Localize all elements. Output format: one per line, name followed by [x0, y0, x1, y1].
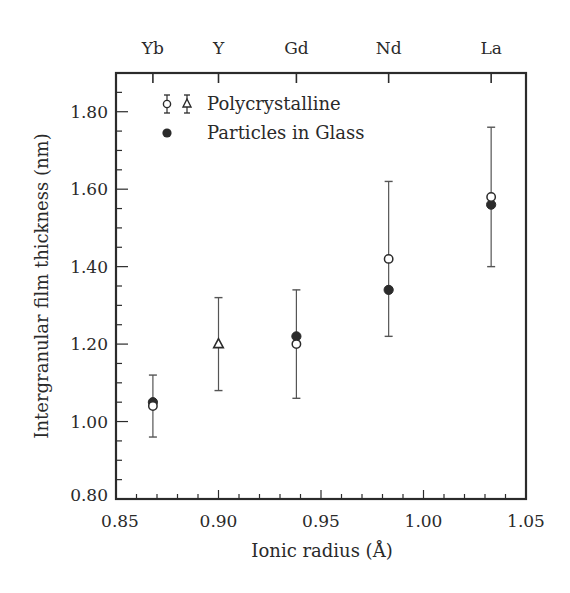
legend-markers [162, 95, 191, 138]
legend-label-particles-in-glass: Particles in Glass [207, 122, 365, 143]
y-axis-ticks: 0.801.001.201.401.601.80 [70, 92, 128, 505]
top-axis-element-labels: YbYGdNdLa [141, 38, 502, 83]
y-tick-label: 1.80 [70, 102, 108, 122]
x-tick-label: 0.90 [200, 511, 238, 531]
legend-open-circle-icon [163, 100, 170, 107]
y-tick-label: 1.00 [70, 412, 108, 432]
x-tick-label: 1.00 [405, 511, 443, 531]
x-tick-label: 0.95 [302, 511, 340, 531]
y-tick-label: 0.80 [70, 485, 108, 505]
open-circle-marker-nd [384, 255, 392, 263]
x-axis-title: Ionic radius (Å) [251, 540, 392, 561]
x-tick-label: 0.85 [101, 511, 139, 531]
chart: 0.850.900.951.001.05 0.801.001.201.401.6… [0, 0, 570, 593]
top-label-nd: Nd [376, 38, 402, 58]
x-axis-ticks: 0.850.900.951.001.05 [101, 490, 545, 531]
error-bars [149, 127, 495, 437]
filled-circle-marker-nd [384, 285, 393, 294]
open-circle-marker-yb [149, 402, 157, 410]
top-label-yb: Yb [141, 38, 164, 58]
open-triangle-marker-y [214, 339, 224, 348]
legend-open-triangle-icon [183, 99, 191, 107]
legend-label-polycrystalline: Polycrystalline [207, 93, 341, 114]
legend-filled-circle-icon [162, 128, 171, 137]
data-markers [148, 193, 495, 411]
open-circle-marker-la [487, 193, 495, 201]
scatter-plot: 0.850.900.951.001.05 0.801.001.201.401.6… [0, 0, 570, 593]
y-axis-title: Intergranular film thickness (nm) [31, 133, 52, 438]
y-tick-label: 1.60 [70, 179, 108, 199]
x-tick-label: 1.05 [507, 511, 545, 531]
top-label-y: Y [212, 38, 225, 58]
y-tick-label: 1.40 [70, 257, 108, 277]
top-label-gd: Gd [284, 38, 309, 58]
open-circle-marker-gd [292, 340, 300, 348]
legend: Polycrystalline Particles in Glass [162, 93, 364, 143]
top-label-la: La [480, 38, 501, 58]
y-tick-label: 1.20 [70, 334, 108, 354]
